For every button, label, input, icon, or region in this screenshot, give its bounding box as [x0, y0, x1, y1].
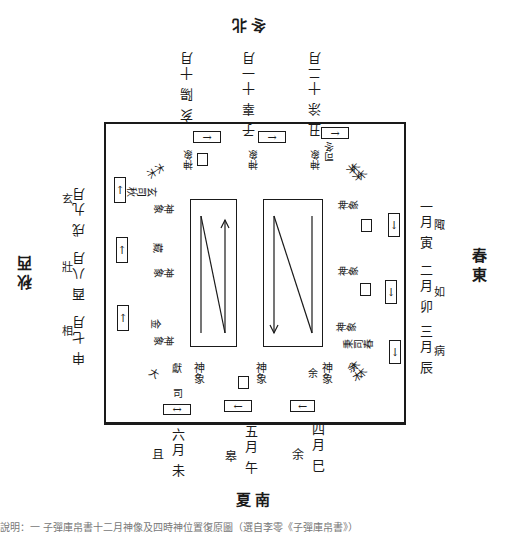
label-east-3: 神象: [336, 323, 356, 334]
month-west-7: 申 七月: [72, 314, 86, 365]
month-east-3: 三月 辰: [418, 325, 432, 376]
arrow-down-icon: ↓: [388, 213, 400, 237]
figure-caption: 說明：一 子彈庫帛書十二月神像及四時神位置復原圖（選自李零《子彈庫帛書》）: [0, 519, 507, 534]
month-south-5: 五月 午: [243, 425, 257, 476]
month-east-2: 二月 卯: [418, 264, 432, 315]
label-west-1: 神象: [154, 203, 174, 214]
small-square: [197, 153, 208, 166]
month-south-4: 四月 巳: [310, 423, 324, 474]
month-east-1-name: 陬: [434, 216, 445, 232]
month-east-1: 一月 寅: [418, 200, 432, 251]
arrow-down-icon: ↓: [389, 340, 401, 364]
label-west-3b: 金: [151, 318, 161, 329]
small-square: [238, 376, 249, 389]
label-west-1b: 玄司秋: [127, 186, 157, 197]
label-north-3b: 司冬: [324, 142, 335, 162]
month-south-6: 六月 未: [170, 428, 184, 479]
arrow-right-icon: →: [258, 131, 286, 143]
label-north-3: 神象: [310, 150, 321, 170]
label-west-2b: 藏: [153, 242, 163, 253]
label-north-1: 神象: [183, 150, 194, 170]
month-west-8: 酉 八月: [72, 250, 86, 301]
direction-south: 夏南: [236, 488, 274, 509]
label-east-2: 神象: [338, 267, 358, 278]
arrow-up-icon: ↑: [114, 177, 126, 203]
arrow-left-icon: ←: [224, 400, 252, 412]
arrow-right-icon: →: [193, 131, 221, 143]
label-south-3b: 余: [306, 368, 317, 378]
direction-west: 秋西: [14, 252, 35, 290]
label-west-3: 神象: [154, 335, 174, 346]
arrow-left-icon: ←: [290, 400, 315, 412]
arrow-up-icon: ↑: [116, 237, 128, 263]
label-south-2: 神象: [254, 362, 266, 384]
inner-rect-left: [190, 199, 237, 347]
arrow-down-icon: ↓: [385, 280, 397, 304]
label-west-2: 神象: [154, 267, 174, 278]
month-west-8-name: 壯: [62, 258, 73, 274]
month-south-6-name: 且: [152, 445, 164, 462]
inner-rect-right: [263, 199, 323, 347]
month-south-5-name: 皋: [225, 447, 237, 464]
arrow-both-icon: ↔: [163, 404, 191, 415]
month-west-7-name: 相: [62, 322, 73, 338]
direction-north: 冬北: [228, 16, 266, 37]
direction-east: 春東: [468, 248, 489, 286]
label-south-3: 神象: [320, 362, 332, 384]
zigzag-up-icon: [191, 200, 236, 346]
month-north-10: 亥 陽 十月: [180, 50, 194, 122]
label-north-2: 神象: [248, 150, 259, 170]
label-south-1b: 獻: [170, 363, 181, 373]
label-east-3b: 秉司春: [343, 340, 373, 351]
month-west-9-name: 玄: [62, 190, 73, 206]
month-east-2-name: 如: [434, 283, 445, 299]
label-east-1: 神象: [338, 201, 358, 212]
arrow-up-icon: ↑: [117, 305, 129, 331]
month-east-3-name: 病: [434, 342, 445, 358]
zigzag-down-icon: [264, 200, 322, 346]
small-square: [361, 219, 372, 232]
label-south-1: 神象: [192, 362, 204, 384]
label-south-1c: 司: [171, 388, 182, 398]
arrow-right-icon: →: [321, 127, 349, 139]
month-west-9: 戌 九月: [72, 186, 86, 237]
month-south-4-name: 余: [292, 445, 304, 462]
small-square: [360, 283, 371, 296]
